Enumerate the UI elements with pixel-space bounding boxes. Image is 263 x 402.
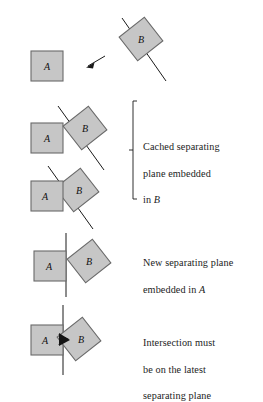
caption-line: separating plane — [143, 390, 211, 401]
box-b-label: B — [78, 334, 84, 345]
box-a-panel3: A — [31, 181, 63, 211]
panel-cached-touching: A B — [31, 166, 99, 229]
box-a-label: A — [45, 261, 53, 272]
box-a-label: A — [41, 191, 49, 202]
caption-line: Cached separating — [143, 141, 220, 152]
grouping-brace — [129, 101, 137, 199]
panel-intersection: A B — [31, 305, 101, 375]
box-a-panel1: A — [31, 51, 63, 81]
caption-emphasis-a: A — [199, 284, 205, 295]
caption-line: New separating plane — [143, 257, 233, 268]
box-a-panel4: A — [34, 251, 66, 281]
box-b-label: B — [76, 185, 82, 196]
caption-line: plane embedded — [143, 168, 211, 179]
caption-line: Intersection must — [143, 337, 215, 348]
motion-arrow-icon — [86, 56, 105, 69]
caption-line: in — [143, 194, 154, 205]
box-a-panel2: A — [31, 123, 63, 153]
caption-intersection: Intersection must be on the latest separ… — [143, 323, 259, 402]
box-a-label: A — [43, 133, 51, 144]
panel-approach: A B — [31, 17, 166, 81]
box-b-label: B — [86, 256, 92, 267]
panel-new-plane: A B — [34, 233, 111, 297]
caption-line: be on the latest — [143, 364, 206, 375]
box-b-label: B — [82, 123, 88, 134]
caption-emphasis-b: B — [154, 194, 160, 205]
caption-new-plane: New separating plane embedded in A — [143, 243, 259, 296]
box-a-label: A — [43, 61, 51, 72]
box-a-panel5: A — [31, 325, 63, 355]
panel-cached-separated: A B — [31, 106, 107, 170]
caption-line: embedded in — [143, 284, 199, 295]
box-b-label: B — [138, 34, 144, 45]
caption-cached-plane: Cached separating plane embedded in B — [143, 127, 259, 206]
box-a-label: A — [41, 335, 49, 346]
